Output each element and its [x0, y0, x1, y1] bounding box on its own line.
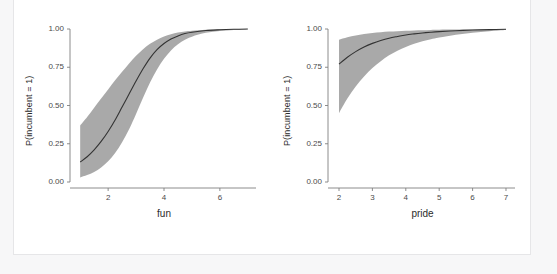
x-tick-label: 2 [327, 193, 351, 202]
y-tick-label: 1.00 [290, 24, 322, 33]
y-tick-label: 0.75 [290, 62, 322, 71]
y-tick-label: 0.75 [32, 62, 64, 71]
y-tick-label: 0.50 [32, 101, 64, 110]
x-tick-label: 5 [427, 193, 451, 202]
y-tick-label: 1.00 [32, 24, 64, 33]
x-tick-label: 2 [96, 193, 120, 202]
figure-card: P(incumbent = 1) fun 0.000.250.500.751.0… [13, 0, 531, 255]
x-tick-label: 6 [461, 193, 485, 202]
x-axis-label-pride: pride [304, 208, 541, 219]
y-tick-label: 0.25 [32, 139, 64, 148]
x-tick-label: 7 [494, 193, 518, 202]
x-axis-label-fun: fun [46, 208, 282, 219]
panel-fun: P(incumbent = 1) fun 0.000.250.500.751.0… [14, 0, 276, 256]
y-axis-label-pride: P(incumbent = 1) [282, 75, 292, 145]
x-tick-label: 4 [152, 193, 176, 202]
y-tick-label: 0.00 [290, 177, 322, 186]
confidence-ribbon [339, 29, 506, 113]
x-tick-label: 6 [208, 193, 232, 202]
panel-pride: P(incumbent = 1) pride 0.000.250.500.751… [276, 0, 532, 256]
y-tick-label: 0.25 [290, 139, 322, 148]
figure-root: P(incumbent = 1) fun 0.000.250.500.751.0… [0, 0, 557, 274]
y-tick-label: 0.50 [290, 101, 322, 110]
x-tick-label: 4 [394, 193, 418, 202]
plot-area: P(incumbent = 1) fun 0.000.250.500.751.0… [14, 0, 532, 256]
confidence-ribbon [80, 29, 248, 177]
y-tick-label: 0.00 [32, 177, 64, 186]
y-axis-label-fun: P(incumbent = 1) [24, 75, 34, 145]
x-tick-label: 3 [360, 193, 384, 202]
